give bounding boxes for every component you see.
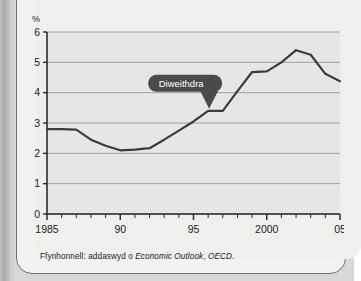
svg-text:05: 05 bbox=[334, 223, 344, 235]
svg-text:2000: 2000 bbox=[255, 223, 279, 235]
svg-text:0: 0 bbox=[34, 208, 40, 220]
svg-text:3: 3 bbox=[34, 117, 40, 129]
x-axis-tick-labels: 19859095200005 bbox=[35, 223, 344, 235]
source-prefix: Ffynhonnell: addaswyd o bbox=[40, 252, 135, 261]
svg-text:1985: 1985 bbox=[35, 223, 59, 235]
page-edge-strip bbox=[0, 0, 10, 281]
source-note: Ffynhonnell: addaswyd o Economic Outlook… bbox=[40, 252, 234, 261]
svg-text:5: 5 bbox=[34, 56, 40, 68]
source-terminator: . bbox=[232, 252, 234, 261]
source-organisation: OECD bbox=[208, 252, 232, 261]
svg-text:90: 90 bbox=[114, 223, 126, 235]
svg-text:6: 6 bbox=[34, 26, 40, 38]
svg-text:Diweithdra: Diweithdra bbox=[159, 78, 205, 89]
svg-text:4: 4 bbox=[34, 86, 40, 98]
x-axis bbox=[47, 214, 340, 220]
unemployment-line-chart: 0123456 19859095200005 Diweithdra bbox=[22, 14, 344, 249]
source-publication: Economic Outlook bbox=[135, 252, 203, 261]
page-edge-strip-inner bbox=[10, 0, 14, 281]
y-axis-tick-labels: 0123456 bbox=[34, 26, 47, 220]
svg-text:1: 1 bbox=[34, 177, 40, 189]
chart-container: % 0123456 19859095200005 Diweithdra bbox=[22, 14, 344, 249]
svg-text:95: 95 bbox=[188, 223, 200, 235]
svg-text:2: 2 bbox=[34, 147, 40, 159]
